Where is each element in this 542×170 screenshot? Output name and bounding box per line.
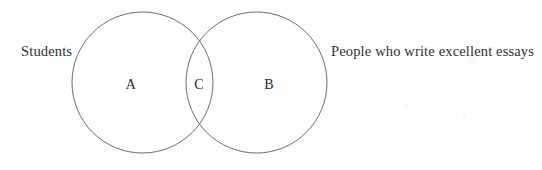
region-label-c: C <box>186 78 212 92</box>
right-set-label: People who write excellent essays <box>331 44 534 59</box>
region-label-b: B <box>256 78 282 92</box>
venn-diagram: Students People who write excellent essa… <box>0 0 542 170</box>
left-set-label: Students <box>21 44 72 59</box>
region-label-a: A <box>118 78 144 92</box>
